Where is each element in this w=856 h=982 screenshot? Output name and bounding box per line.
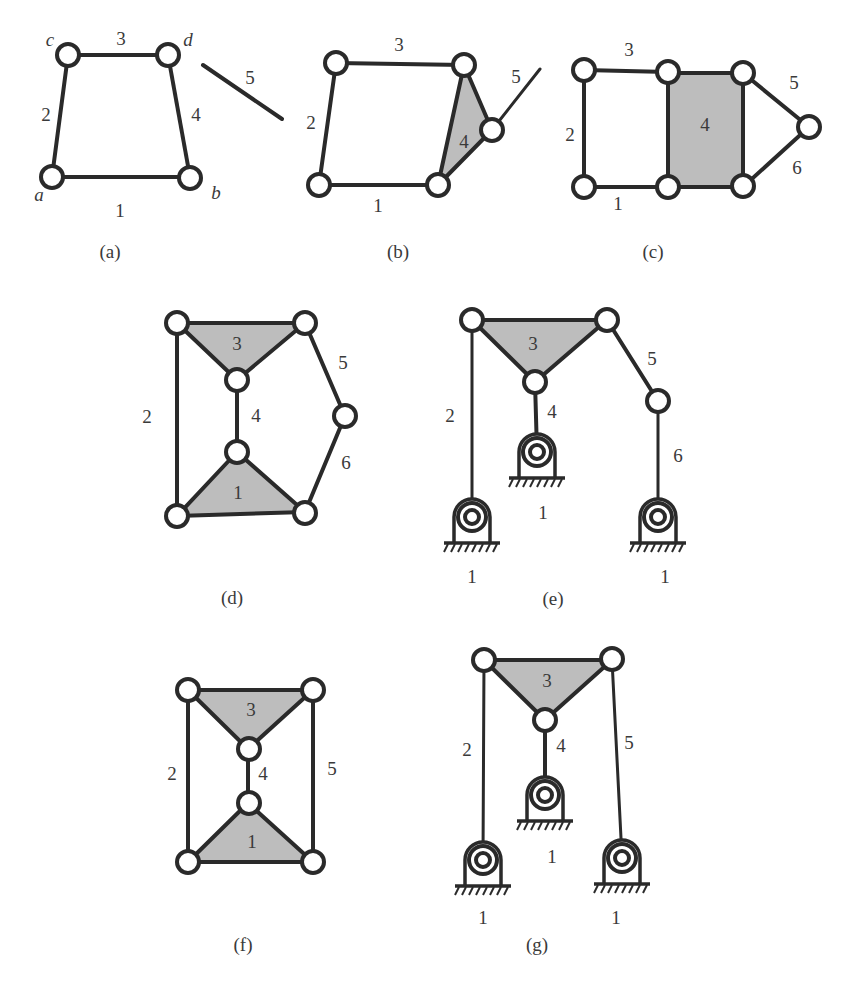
ground-label-1: 1 — [538, 502, 548, 523]
panel-g: 3 2 4 5 1 1 1 (g) — [455, 648, 650, 956]
ground-label-1: 1 — [478, 907, 488, 928]
ground-label-1: 1 — [547, 846, 557, 867]
link-3 — [336, 63, 464, 65]
joint-b — [179, 167, 201, 189]
joint — [177, 851, 199, 873]
joint — [302, 679, 324, 701]
joint — [647, 390, 669, 412]
joint — [573, 176, 595, 198]
joint — [302, 851, 324, 873]
ground-pivot-icon — [509, 434, 565, 487]
link-label-3: 3 — [116, 28, 126, 49]
link-6 — [305, 416, 345, 512]
panel-e: 3 2 4 5 6 1 1 1 (e) — [444, 309, 686, 610]
link-label-4: 4 — [459, 131, 469, 152]
link-label-1: 1 — [373, 195, 383, 216]
link-label-3: 3 — [246, 699, 256, 720]
joint — [657, 61, 679, 83]
caption-a: (a) — [99, 241, 120, 263]
link-label-4: 4 — [251, 405, 261, 426]
link-label-5: 5 — [245, 67, 255, 88]
joint — [657, 176, 679, 198]
joint — [334, 405, 356, 427]
link-label-3: 3 — [528, 333, 538, 354]
joint — [177, 679, 199, 701]
panel-c: 3 2 4 5 6 1 (c) — [565, 39, 820, 263]
joint — [798, 116, 820, 138]
link-label-1: 1 — [115, 200, 125, 221]
link-label-3: 3 — [542, 670, 552, 691]
link-label-5: 5 — [327, 758, 337, 779]
joint — [308, 174, 330, 196]
link-label-2: 2 — [462, 739, 472, 760]
caption-c: (c) — [642, 241, 663, 263]
link-label-4: 4 — [547, 401, 557, 422]
panel-a: c d a b 3 2 4 5 1 (a) — [34, 28, 282, 263]
joint — [573, 59, 595, 81]
caption-b: (b) — [387, 241, 409, 263]
link-label-2: 2 — [41, 104, 51, 125]
caption-g: (g) — [526, 934, 548, 956]
joint-label-d: d — [183, 29, 193, 50]
link-label-6: 6 — [341, 452, 351, 473]
link-label-4: 4 — [258, 763, 268, 784]
link-label-2: 2 — [167, 763, 177, 784]
ground-label-1: 1 — [611, 907, 621, 928]
link-label-6: 6 — [673, 445, 683, 466]
link-label-4: 4 — [191, 104, 201, 125]
ground-label-1: 1 — [660, 566, 670, 587]
link-label-1: 1 — [233, 482, 243, 503]
caption-d: (d) — [221, 587, 243, 609]
joint — [294, 312, 316, 334]
link-2 — [52, 55, 68, 177]
joint — [732, 62, 754, 84]
joint — [461, 309, 483, 331]
joint — [294, 502, 316, 524]
joint — [325, 52, 347, 74]
ground-pivot-icon — [630, 499, 686, 552]
joint — [238, 738, 260, 760]
link-5 — [203, 65, 282, 119]
panel-b: 3 2 4 5 1 (b) — [306, 34, 540, 263]
joint — [596, 309, 618, 331]
caption-e: (e) — [542, 588, 563, 610]
joint-label-c: c — [46, 29, 55, 50]
joint — [481, 119, 503, 141]
link-label-4: 4 — [556, 735, 566, 756]
joint — [473, 649, 495, 671]
link-label-3: 3 — [394, 34, 404, 55]
link-label-3: 3 — [624, 39, 634, 60]
joint — [524, 371, 546, 393]
joint-label-b: b — [211, 182, 221, 203]
link-label-2: 2 — [306, 112, 316, 133]
joint — [166, 505, 188, 527]
ground-pivot-icon — [455, 842, 511, 895]
ground-pivot-icon — [517, 777, 573, 830]
link-label-2: 2 — [445, 405, 455, 426]
joint — [601, 648, 623, 670]
joint-c — [57, 44, 79, 66]
joint — [453, 54, 475, 76]
link-5 — [612, 660, 622, 858]
link-2 — [319, 63, 336, 185]
ground-pivot-icon — [444, 499, 500, 552]
joint — [226, 369, 248, 391]
link-label-3: 3 — [232, 333, 242, 354]
link-label-5: 5 — [624, 732, 634, 753]
link-label-5: 5 — [789, 72, 799, 93]
panel-d: 3 2 4 5 6 1 (d) — [142, 312, 356, 609]
link-label-5: 5 — [338, 352, 348, 373]
link-label-6: 6 — [792, 157, 802, 178]
caption-f: (f) — [234, 934, 253, 956]
figure-canvas: c d a b 3 2 4 5 1 (a) 3 2 4 5 1 (b) — [0, 0, 856, 982]
link-label-5: 5 — [647, 348, 657, 369]
link-label-1: 1 — [247, 831, 257, 852]
link-4 — [168, 55, 190, 177]
link-2 — [483, 660, 484, 860]
joint — [534, 709, 556, 731]
joint — [166, 312, 188, 334]
link-label-5: 5 — [511, 66, 521, 87]
joint — [732, 175, 754, 197]
link-label-2: 2 — [142, 406, 152, 427]
joint — [226, 441, 248, 463]
